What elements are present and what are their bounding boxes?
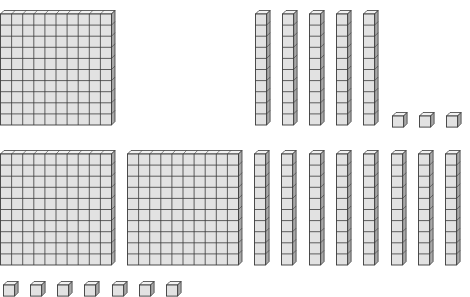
ten-rod [336,150,352,266]
unit-cube [166,281,182,297]
unit-cube [57,281,73,297]
ten-rod [255,10,271,126]
unit-cube [30,281,46,297]
unit-cube [3,281,19,297]
hundred-flat [0,150,116,266]
ten-rod [309,10,325,126]
hundred-flat [0,10,116,126]
ten-rod [445,150,461,266]
unit-cube [84,281,100,297]
ten-rod [281,150,297,266]
ten-rod [418,150,434,266]
ten-rod [282,10,298,126]
unit-cube [392,112,408,128]
ten-rod [363,150,379,266]
ten-rod [336,10,352,126]
ten-rod [363,10,379,126]
unit-cube [139,281,155,297]
ten-rod [309,150,325,266]
ten-rod [254,150,270,266]
ten-rod [391,150,407,266]
unit-cube [112,281,128,297]
unit-cube [446,112,462,128]
hundred-flat [127,150,243,266]
unit-cube [419,112,435,128]
